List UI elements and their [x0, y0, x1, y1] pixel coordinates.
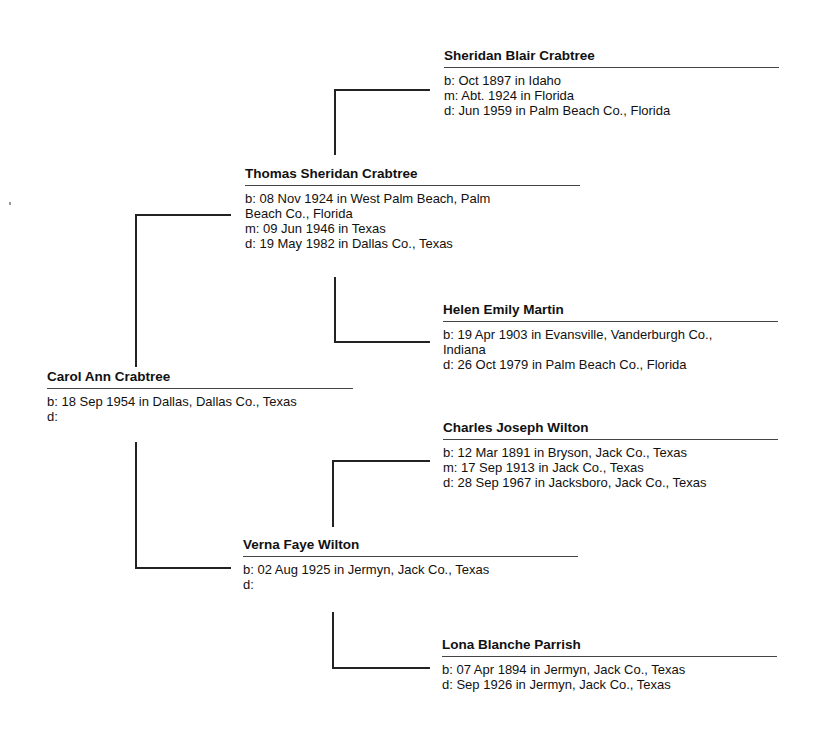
connector-root-mother-horizontal [135, 567, 231, 569]
fact-birth: b: Oct 1897 in Idaho [444, 73, 779, 88]
person-facts: b: 02 Aug 1925 in Jermyn, Jack Co., Texa… [243, 562, 578, 592]
person-facts: b: 19 Apr 1903 in Evansville, Vanderburg… [443, 327, 778, 372]
person-father[interactable]: Thomas Sheridan Crabtree b: 08 Nov 1924 … [245, 166, 580, 251]
fact-birth: b: 19 Apr 1903 in Evansville, Vanderburg… [443, 327, 778, 342]
fact-birth-cont: Indiana [443, 342, 778, 357]
fact-death: d: 19 May 1982 in Dallas Co., Texas [245, 236, 580, 251]
fact-death: d: 26 Oct 1979 in Palm Beach Co., Florid… [443, 357, 778, 372]
connector-father-pgf-horizontal [334, 89, 430, 91]
connector-mother-mgm-horizontal [332, 667, 430, 669]
fact-birth-cont: Beach Co., Florida [245, 206, 580, 221]
person-maternal-grandfather[interactable]: Charles Joseph Wilton b: 12 Mar 1891 in … [443, 420, 778, 490]
person-facts: b: 07 Apr 1894 in Jermyn, Jack Co., Texa… [442, 662, 777, 692]
fact-birth: b: 18 Sep 1954 in Dallas, Dallas Co., Te… [47, 394, 353, 409]
fact-birth: b: 08 Nov 1924 in West Palm Beach, Palm [245, 191, 580, 206]
person-maternal-grandmother[interactable]: Lona Blanche Parrish b: 07 Apr 1894 in J… [442, 637, 777, 692]
connector-father-pgm-horizontal [334, 341, 430, 343]
person-name: Carol Ann Crabtree [47, 369, 353, 389]
fact-birth: b: 02 Aug 1925 in Jermyn, Jack Co., Texa… [243, 562, 578, 577]
fact-death: d: [243, 577, 578, 592]
person-paternal-grandfather[interactable]: Sheridan Blair Crabtree b: Oct 1897 in I… [444, 48, 779, 118]
connector-father-pgm-vertical [334, 277, 336, 342]
fact-marriage: m: Abt. 1924 in Florida [444, 88, 779, 103]
person-name: Thomas Sheridan Crabtree [245, 166, 580, 186]
fact-death: d: 28 Sep 1967 in Jacksboro, Jack Co., T… [443, 475, 778, 490]
person-name: Verna Faye Wilton [243, 537, 578, 557]
fact-death: d: [47, 409, 353, 424]
fact-marriage: m: 17 Sep 1913 in Jack Co., Texas [443, 460, 778, 475]
person-name: Helen Emily Martin [443, 302, 778, 322]
person-paternal-grandmother[interactable]: Helen Emily Martin b: 19 Apr 1903 in Eva… [443, 302, 778, 372]
connector-root-father-horizontal [135, 214, 231, 216]
connector-root-mother-vertical [135, 442, 137, 568]
connector-father-pgf-vertical [334, 89, 336, 155]
fact-birth: b: 07 Apr 1894 in Jermyn, Jack Co., Texa… [442, 662, 777, 677]
person-root[interactable]: Carol Ann Crabtree b: 18 Sep 1954 in Dal… [47, 369, 353, 424]
connector-mother-mgf-horizontal [332, 460, 430, 462]
person-name: Charles Joseph Wilton [443, 420, 778, 440]
fact-death: d: Sep 1926 in Jermyn, Jack Co., Texas [442, 677, 777, 692]
fact-marriage: m: 09 Jun 1946 in Texas [245, 221, 580, 236]
fact-death: d: Jun 1959 in Palm Beach Co., Florida [444, 103, 779, 118]
connector-mother-mgm-vertical [332, 612, 334, 668]
connector-mother-mgf-vertical [332, 460, 334, 527]
person-facts: b: Oct 1897 in Idaho m: Abt. 1924 in Flo… [444, 73, 779, 118]
scan-speck [9, 202, 11, 205]
connector-root-father-vertical [135, 214, 137, 367]
fact-birth: b: 12 Mar 1891 in Bryson, Jack Co., Texa… [443, 445, 778, 460]
person-mother[interactable]: Verna Faye Wilton b: 02 Aug 1925 in Jerm… [243, 537, 578, 592]
person-facts: b: 08 Nov 1924 in West Palm Beach, Palm … [245, 191, 580, 251]
person-facts: b: 12 Mar 1891 in Bryson, Jack Co., Texa… [443, 445, 778, 490]
person-facts: b: 18 Sep 1954 in Dallas, Dallas Co., Te… [47, 394, 353, 424]
person-name: Lona Blanche Parrish [442, 637, 777, 657]
person-name: Sheridan Blair Crabtree [444, 48, 779, 68]
